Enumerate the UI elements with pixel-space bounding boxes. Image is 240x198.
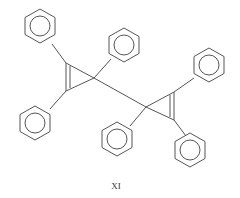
chemical-structure [0,0,240,198]
phenyl-ring-bottom-center [102,122,132,156]
phenyl-ring-top-left [25,9,55,43]
phenyl-ring-top-center [109,28,139,62]
left-cyclopropene-ring [66,63,94,91]
phenyl-ring-top-right [194,48,224,82]
phenyl-ring-bottom-left [20,106,50,140]
right-cyclopropene-ring [146,92,174,120]
compound-label: XI [104,181,128,191]
phenyl-ring-bottom-right [175,133,205,167]
central-bond [94,78,146,107]
